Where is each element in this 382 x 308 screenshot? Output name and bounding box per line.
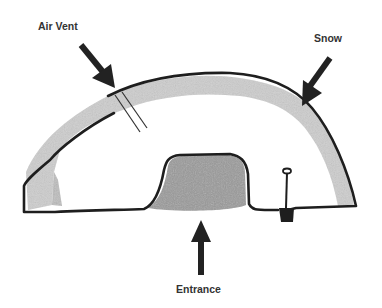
arrow-down-left-icon (302, 58, 330, 106)
air-vent-label: Air Vent (38, 20, 78, 32)
arrow-down-right-icon (81, 45, 115, 88)
shelter-diagram (0, 0, 382, 308)
arrow-up-icon (191, 220, 211, 275)
entrance-label: Entrance (176, 283, 221, 295)
shovel-icon (279, 169, 294, 223)
entrance-tunnel (148, 155, 246, 211)
snow-label: Snow (314, 32, 342, 44)
